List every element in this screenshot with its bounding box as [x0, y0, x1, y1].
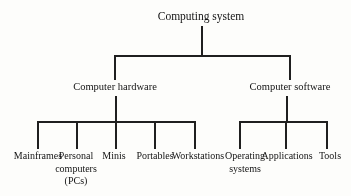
connector-tools-drop — [326, 121, 328, 149]
connector-portables-drop — [154, 121, 156, 149]
connector-level1-bar — [114, 55, 291, 57]
hardware-node-label: Computer hardware — [73, 81, 157, 93]
connector-applications-drop — [285, 121, 287, 149]
leaf-tools: Tools — [319, 150, 341, 163]
connector-mainframes-drop — [37, 121, 39, 149]
connector-hardware-drop — [114, 55, 116, 80]
root-node-label: Computing system — [158, 10, 245, 23]
leaf-line: Operating — [225, 150, 265, 163]
connector-workstations-drop — [194, 121, 196, 149]
leaf-minis: Minis — [102, 150, 125, 163]
leaf-line: Tools — [319, 150, 341, 163]
leaf-line: computers — [55, 163, 97, 176]
connector-operating-systems-drop — [239, 121, 241, 149]
leaf-line: Portables — [136, 150, 173, 163]
software-node-label: Computer software — [250, 81, 331, 93]
leaf-personal-computers: Personal computers (PCs) — [55, 150, 97, 188]
leaf-line: Personal — [55, 150, 97, 163]
leaf-applications: Applications — [261, 150, 312, 163]
computing-system-tree-diagram: Computing system Computer hardware Compu… — [0, 0, 351, 196]
leaf-line: Applications — [261, 150, 312, 163]
connector-software-bar — [239, 121, 328, 123]
leaf-operating-systems: Operating systems — [225, 150, 265, 175]
leaf-workstations: Workstations — [172, 150, 225, 163]
connector-minis-drop — [115, 121, 117, 149]
connector-software-to-bar — [286, 96, 288, 123]
leaf-line: Workstations — [172, 150, 225, 163]
leaf-line: systems — [225, 163, 265, 176]
connector-root-vertical — [201, 26, 203, 56]
connector-hardware-to-bar — [115, 96, 117, 123]
leaf-line: (PCs) — [55, 175, 97, 188]
connector-software-drop — [289, 55, 291, 80]
connector-personal-computers-drop — [76, 121, 78, 149]
leaf-line: Minis — [102, 150, 125, 163]
leaf-portables: Portables — [136, 150, 173, 163]
